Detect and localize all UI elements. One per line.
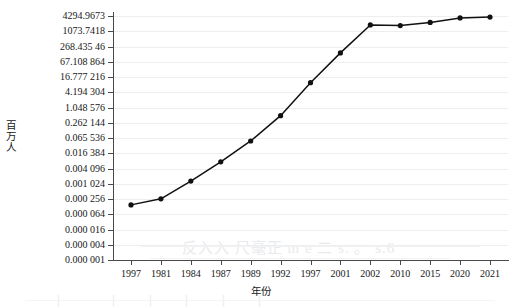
x-axis-tick-mark [490,261,491,265]
data-point-marker [368,22,373,27]
y-axis-tick-label: 1073.7418 [63,26,106,36]
y-axis-tick-label: 0.000 256 [65,194,105,204]
x-axis-tick-label: 2010 [390,268,410,279]
x-axis-tick-label: 1997 [301,268,321,279]
data-point-marker [158,196,163,201]
y-axis-tick-label: 268.435 46 [60,42,105,52]
data-point-marker [278,113,283,118]
x-axis-tick-label: 1989 [241,268,261,279]
y-axis-tick-label: 0.065 536 [65,133,105,143]
x-axis-tick-label: 1997 [121,268,141,279]
x-axis-tick-mark [251,261,252,265]
data-point-marker [128,202,133,207]
x-axis-tick-label: 2001 [330,268,350,279]
x-axis-tick-label: 2002 [360,268,380,279]
x-axis-title: 年份 [0,283,521,298]
y-axis-tick-label: 0.001 024 [65,179,105,189]
data-series-line [113,12,509,261]
series-polyline [131,17,490,205]
data-point-marker [338,50,343,55]
x-axis-tick-label: 1992 [271,268,291,279]
y-axis-tick-label: 0.000 001 [65,255,105,265]
x-axis-tick-label: 2021 [480,268,500,279]
x-axis-tick-mark [460,261,461,265]
x-axis-tick-mark [311,261,312,265]
y-axis-tick-label: 0.016 384 [65,148,105,158]
y-axis-tick-label: 0.000 004 [65,240,105,250]
x-axis-tick-mark [400,261,401,265]
data-point-marker [308,80,313,85]
x-axis-tick-mark [191,261,192,265]
data-point-marker [428,20,433,25]
y-axis-tick-label: 16.777 216 [60,72,105,82]
x-axis-tick-mark [131,261,132,265]
x-axis-tick-label: 1984 [181,268,201,279]
y-axis-tick-label: 0.000 064 [65,209,105,219]
data-point-marker [398,23,403,28]
x-axis-tick-mark [161,261,162,265]
data-point-marker [487,14,492,19]
x-axis-tick-label: 2015 [420,268,440,279]
x-axis-tick-mark [340,261,341,265]
data-point-marker [248,138,253,143]
y-axis-tick-label: 0.000 016 [65,225,105,235]
data-point-marker [188,179,193,184]
chart-figure: 反入入 尺毫正 m e 二 s. 。 s.6 一 丨 一 一 丨 一 丨 一 丨… [0,0,521,308]
x-axis-tick-label: 1981 [151,268,171,279]
y-axis-tick-label: 4294.9673 [63,11,106,21]
x-axis-tick-mark [221,261,222,265]
y-axis-tick-label: 67.108 864 [60,57,105,67]
y-axis-tick-label: 0.004 096 [65,164,105,174]
x-axis-tick-mark [281,261,282,265]
y-axis-tick-label: 4.194 304 [65,87,105,97]
x-axis-tick-mark [370,261,371,265]
x-axis-tick-mark [430,261,431,265]
y-axis-tick-label: 0.262 144 [65,118,105,128]
y-axis-tick-labels: 4294.96731073.7418268.435 4667.108 86416… [0,0,105,308]
y-axis-tick-label: 1.048 576 [65,103,105,113]
data-point-marker [218,159,223,164]
data-point-marker [457,15,462,20]
x-axis-tick-label: 2020 [450,268,470,279]
x-axis-tick-label: 1987 [211,268,231,279]
